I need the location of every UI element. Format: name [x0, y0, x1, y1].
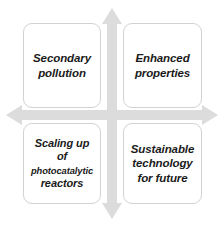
- quadrant-line-small: photocatalytic: [31, 165, 93, 176]
- quadrant-diagram-canvas: Secondary pollution Enhanced properties …: [0, 0, 224, 227]
- quadrant-line: properties: [135, 67, 190, 79]
- quadrant-box-sustainable-technology[interactable]: Sustainable technology for future: [123, 123, 202, 204]
- quadrant-line: for future: [137, 172, 187, 184]
- quadrant-label-secondary-pollution: Secondary pollution: [30, 51, 94, 79]
- quadrant-line: technology: [132, 157, 192, 169]
- quadrant-label-scaling-up: Scaling up of photocatalytic reactors: [28, 137, 96, 191]
- quadrant-box-scaling-up[interactable]: Scaling up of photocatalytic reactors: [23, 123, 101, 204]
- quadrant-line: reactors: [41, 177, 84, 189]
- quadrant-line: Secondary: [33, 52, 91, 64]
- quadrant-line: pollution: [38, 67, 86, 79]
- quadrant-box-enhanced-properties[interactable]: Enhanced properties: [123, 23, 202, 108]
- quadrant-line: of: [57, 150, 67, 162]
- quadrant-line: Scaling up: [35, 137, 90, 149]
- quadrant-line: Enhanced: [135, 52, 189, 64]
- quadrant-box-secondary-pollution[interactable]: Secondary pollution: [23, 23, 101, 108]
- quadrant-line: Sustainable: [131, 143, 194, 155]
- quadrant-label-enhanced-properties: Enhanced properties: [132, 51, 193, 79]
- quadrant-label-sustainable-technology: Sustainable technology for future: [128, 142, 197, 184]
